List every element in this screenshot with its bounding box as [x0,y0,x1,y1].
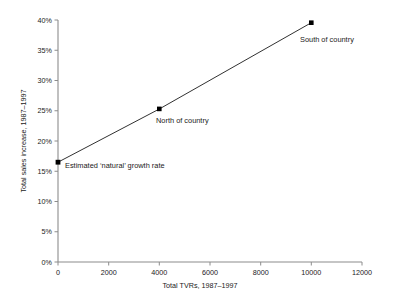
chart-container: 40% 35% 30% 25% 20% 15% 10% 5% 0% Total … [0,0,396,298]
y-tick-label-35: 35% [38,46,53,55]
annotation-south: South of country [300,35,354,44]
data-point-south[interactable] [309,20,314,25]
y-axis-title: Total sales increase, 1987–1997 [19,89,28,192]
annotation-natural-growth: Estimated ‘natural’ growth rate [65,161,165,170]
x-tick-label-0: 0 [56,268,60,277]
scatter-plot: 40% 35% 30% 25% 20% 15% 10% 5% 0% Total … [0,0,396,298]
y-tick-label-15: 15% [38,167,53,176]
x-tick-label-6000: 6000 [202,268,218,277]
y-tick-label-25: 25% [38,106,53,115]
y-tick-label-20: 20% [38,137,53,146]
y-tick-label-30: 30% [38,76,53,85]
x-tick-label-4000: 4000 [151,268,167,277]
chart-background [0,0,396,298]
x-tick-label-2000: 2000 [101,268,117,277]
y-tick-label-5: 5% [42,227,53,236]
x-tick-label-10000: 10000 [301,268,321,277]
y-tick-label-0: 0% [42,258,53,267]
data-point-north[interactable] [157,107,162,112]
annotation-north: North of country [156,116,209,125]
data-point-natural-growth[interactable] [56,160,61,165]
x-tick-label-8000: 8000 [253,268,269,277]
y-tick-label-40: 40% [38,16,53,25]
x-tick-label-12000: 12000 [352,268,372,277]
x-axis-title: Total TVRs, 1987–1997 [163,281,238,290]
y-tick-label-10: 10% [38,197,53,206]
